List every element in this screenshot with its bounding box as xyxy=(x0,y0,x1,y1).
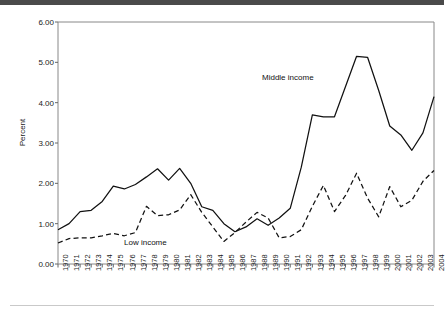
x-tick-label: 1971 xyxy=(72,254,81,271)
x-tick-label: 1997 xyxy=(360,254,369,271)
x-tick-label: 1974 xyxy=(105,254,114,271)
x-tick-label: 1970 xyxy=(61,254,70,271)
x-tick-label: 1988 xyxy=(260,254,269,271)
x-tick-label: 2004 xyxy=(437,254,446,271)
x-tick-label: 1978 xyxy=(150,254,159,271)
bottom-divider-rule xyxy=(10,305,434,306)
x-tick-label: 1980 xyxy=(172,254,181,271)
x-tick-label: 1982 xyxy=(194,254,203,271)
x-tick-label: 1983 xyxy=(205,254,214,271)
x-tick-label: 1985 xyxy=(227,254,236,271)
y-axis-title: Percent xyxy=(18,103,27,163)
x-tick-label: 1990 xyxy=(282,254,291,271)
x-tick-label: 1992 xyxy=(304,254,313,271)
series-label-middle-income: Middle income xyxy=(262,73,314,82)
x-tick-label: 1995 xyxy=(338,254,347,271)
x-tick-label: 1999 xyxy=(382,254,391,271)
x-tick-label: 1989 xyxy=(271,254,280,271)
x-tick-label: 2003 xyxy=(426,254,435,271)
x-tick-label: 1976 xyxy=(128,254,137,271)
x-tick-label: 1994 xyxy=(327,254,336,271)
series-label-low-income: Low income xyxy=(124,238,167,247)
x-tick-label: 1993 xyxy=(316,254,325,271)
x-tick-label: 1991 xyxy=(293,254,302,271)
x-tick-label: 1975 xyxy=(116,254,125,271)
x-tick-label: 2001 xyxy=(404,254,413,271)
x-tick-label: 2000 xyxy=(393,254,402,271)
x-tick-label: 1984 xyxy=(216,254,225,271)
x-tick-label: 1977 xyxy=(139,254,148,271)
x-tick-label: 2002 xyxy=(415,254,424,271)
x-tick-label: 1979 xyxy=(161,254,170,271)
x-tick-label: 1998 xyxy=(371,254,380,271)
x-tick-label: 1973 xyxy=(94,254,103,271)
x-tick-label: 1996 xyxy=(349,254,358,271)
x-tick-label: 1972 xyxy=(83,254,92,271)
x-tick-label: 1981 xyxy=(183,254,192,271)
x-tick-label: 1986 xyxy=(238,254,247,271)
x-tick-label: 1987 xyxy=(249,254,258,271)
